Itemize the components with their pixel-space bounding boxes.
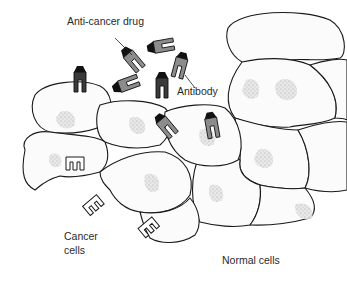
label-anti-cancer-drug: Anti-cancer drug	[67, 15, 144, 27]
label-antibody: Antibody	[177, 85, 218, 97]
label-cancer-line1: Cancer	[64, 230, 98, 242]
label-normal-cells: Normal cells	[222, 254, 280, 266]
label-cancer-line2: cells	[64, 244, 85, 256]
antibody-drug-diagram	[0, 0, 347, 282]
